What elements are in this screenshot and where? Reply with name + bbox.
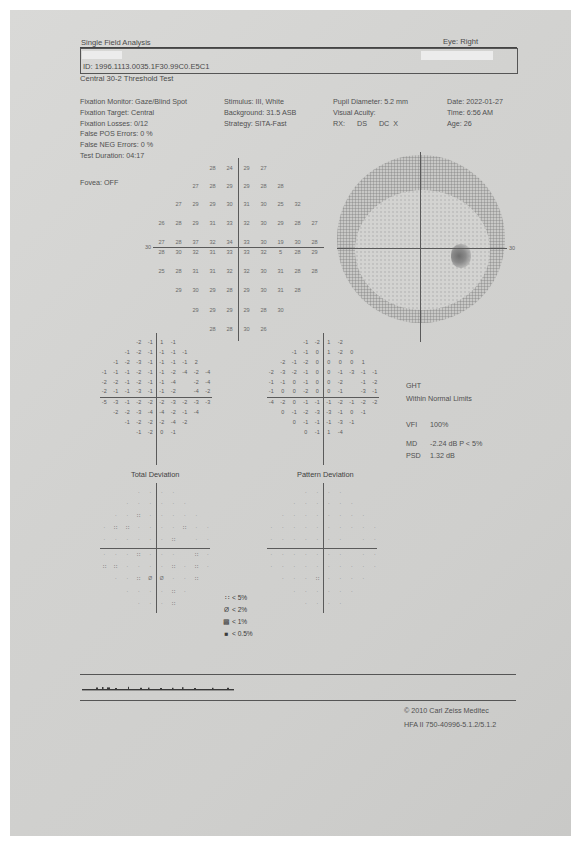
gray-vertical-axis (420, 152, 421, 342)
dots-5pct-icon: ∷ (223, 594, 230, 602)
patient-id: ID: 1996.1113.0035.1F30.99C0.E5C1 (83, 62, 209, 72)
fixation-target: Fixation Target: Central (80, 108, 187, 119)
slashed-circle-2pct-icon: Ø (223, 606, 230, 613)
md-value: -2.24 dB P < 5% (430, 439, 482, 448)
stimulus: Stimulus: III, White (224, 97, 296, 108)
params-col-4: Date: 2022-01-27 Time: 6:56 AM Age: 26 (447, 97, 503, 129)
software-version: HFA II 750-40996-5.1.2/5.1.2 (404, 720, 496, 729)
gray-horizontal-axis (337, 248, 507, 249)
fixation-losses: Fixation Losses: 0/12 (80, 119, 187, 130)
test-duration: Test Duration: 04:17 (80, 151, 187, 162)
legend-item-1pct: ▩< 1% (223, 618, 247, 626)
pupil-diameter: Pupil Diameter: 5.2 mm (333, 97, 408, 108)
params-col-2: Stimulus: III, White Background: 31.5 AS… (224, 97, 296, 129)
pattern-deviation-label: Pattern Deviation (297, 470, 354, 479)
eye-label: Eye: Right (443, 37, 478, 47)
psd-value: 1.32 dB (430, 451, 455, 460)
legend-item-5pct: ∷< 5% (223, 594, 247, 602)
false-neg-errors: False NEG Errors: 0 % (80, 140, 187, 151)
background: Background: 31.5 ASB (224, 108, 296, 119)
ght-label: GHT (406, 381, 421, 390)
vfi-label: VFI (406, 420, 417, 429)
visual-acuity: Visual Acuity: (333, 108, 408, 119)
legend-item-2pct: Ø< 2% (223, 606, 247, 613)
test-name: Central 30-2 Threshold Test (80, 74, 173, 84)
test-date: Date: 2022-01-27 (447, 97, 503, 108)
psd-label: PSD (406, 451, 421, 460)
md-label: MD (406, 439, 417, 448)
strategy: Strategy: SITA-Fast (224, 119, 296, 130)
redacted-name (82, 51, 122, 59)
gray-axis-label-right: 30 (509, 245, 515, 251)
false-pos-errors: False POS Errors: 0 % (80, 129, 187, 140)
total-deviation-label: Total Deviation (131, 470, 179, 479)
legend-item-05pct: ■< 0.5% (223, 630, 253, 637)
checker-1pct-icon: ▩ (223, 618, 230, 626)
ght-value: Within Normal Limits (406, 394, 472, 403)
fovea-status: Fovea: OFF (80, 178, 118, 187)
vfi-value: 100% (430, 420, 448, 429)
copyright: © 2010 Carl Zeiss Meditec (404, 706, 489, 715)
gaze-tracking-trace (82, 686, 234, 692)
params-col-1: Fixation Monitor: Gaze/Blind Spot Fixati… (80, 97, 187, 162)
params-col-3: Pupil Diameter: 5.2 mm Visual Acuity: RX… (333, 97, 408, 129)
fixation-monitor: Fixation Monitor: Gaze/Blind Spot (80, 97, 187, 108)
solid-square-05pct-icon: ■ (223, 630, 230, 637)
test-time: Time: 6:56 AM (447, 108, 503, 119)
patient-age: Age: 26 (447, 119, 503, 130)
redacted-dob (421, 51, 493, 60)
refraction: RX: DS DC X (333, 119, 408, 130)
